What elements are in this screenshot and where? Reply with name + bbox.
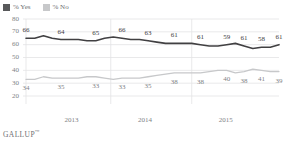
data-label-no-27: 41 [255, 76, 269, 83]
square-swatch-icon [43, 4, 50, 11]
x-tick-label-2014: 2014 [125, 117, 165, 124]
plot-area: 20304050607080 6664656663616159615861343… [0, 16, 283, 116]
data-label-yes-8: 65 [89, 30, 103, 37]
y-tick-label-30: 30 [3, 80, 19, 87]
gallup-brand-logo: GALLUP™ [3, 128, 40, 139]
y-tick-label-60: 60 [3, 41, 19, 48]
data-label-no-20: 38 [194, 79, 208, 86]
x-tick-label-2013: 2013 [52, 117, 92, 124]
data-label-yes-14: 63 [141, 30, 155, 37]
trademark-icon: ™ [35, 129, 40, 134]
y-tick-label-40: 40 [3, 67, 19, 74]
data-label-yes-4: 64 [54, 29, 68, 36]
data-label-no-23: 40 [220, 76, 234, 83]
chart-legend: % Yes % No [3, 1, 69, 13]
data-label-yes-29: 61 [272, 34, 283, 41]
data-label-yes-11: 66 [115, 27, 129, 34]
y-tick-label-20: 20 [3, 93, 19, 100]
data-label-no-14: 35 [141, 83, 155, 90]
data-label-no-11: 33 [115, 84, 129, 91]
y-tick-label-50: 50 [3, 54, 19, 61]
square-swatch-icon [3, 4, 10, 11]
data-label-no-0: 34 [19, 85, 33, 92]
y-tick-label-80: 80 [3, 16, 19, 23]
data-label-yes-23: 59 [220, 34, 234, 41]
data-label-yes-20: 61 [194, 34, 208, 41]
legend-item-yes[interactable]: % Yes [3, 4, 31, 11]
data-label-yes-27: 58 [255, 36, 269, 43]
brand-text: GALLUP [3, 130, 35, 139]
gallup-line-chart: % Yes % No 20304050607080 66646566636161… [0, 0, 283, 143]
data-label-no-4: 35 [54, 84, 68, 91]
data-label-yes-25: 61 [237, 35, 251, 42]
data-label-yes-0: 66 [19, 27, 33, 34]
data-label-no-8: 33 [89, 83, 103, 90]
data-label-no-29: 39 [272, 78, 283, 85]
legend-item-no[interactable]: % No [43, 4, 69, 11]
x-tick-label-2015: 2015 [206, 117, 246, 124]
legend-label-no: % No [53, 4, 69, 11]
data-label-yes-17: 61 [167, 32, 181, 39]
data-label-no-17: 38 [167, 79, 181, 86]
legend-label-yes: % Yes [13, 4, 31, 11]
y-tick-label-70: 70 [3, 28, 19, 35]
data-label-no-25: 38 [237, 78, 251, 85]
